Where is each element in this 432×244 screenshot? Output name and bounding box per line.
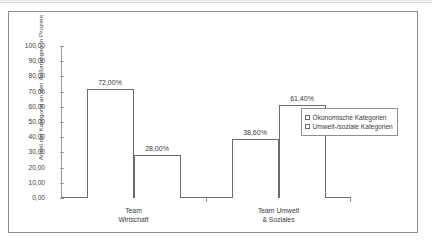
bar[interactable] bbox=[134, 155, 181, 198]
category-label-line: & Soziales bbox=[206, 215, 351, 224]
y-axis-tick bbox=[60, 122, 64, 123]
y-axis-tick-label: 40,00 bbox=[5, 133, 45, 140]
y-axis-tick bbox=[60, 152, 64, 153]
category-label: Team Umwelt& Soziales bbox=[206, 206, 351, 224]
y-axis-tick bbox=[60, 168, 64, 169]
bar-value-label: 38,60% bbox=[226, 129, 285, 136]
y-axis-tick-label: 10,00 bbox=[5, 179, 45, 186]
legend-swatch-icon bbox=[305, 115, 310, 120]
y-axis-tick-label: 80,00 bbox=[5, 72, 45, 79]
y-axis-tick-label: 60,00 bbox=[5, 103, 45, 110]
y-axis-tick-label: 100,00 bbox=[5, 42, 45, 49]
x-axis-tick bbox=[350, 198, 351, 202]
y-axis-tick-label: 30,00 bbox=[5, 148, 45, 155]
y-axis-tick-label: 20,00 bbox=[5, 164, 45, 171]
bar-value-label: 72,00% bbox=[81, 79, 140, 86]
bar[interactable] bbox=[87, 89, 134, 198]
y-axis-tick-label: 50,00 bbox=[5, 118, 45, 125]
legend-swatch-icon bbox=[305, 124, 310, 129]
bar-value-label: 28,00% bbox=[128, 145, 187, 152]
legend: Ökonomische Kategorien Umwelt-/soziale K… bbox=[301, 108, 398, 136]
category-label-line: Wirtschaft bbox=[61, 215, 206, 224]
y-axis-tick-label: 70,00 bbox=[5, 88, 45, 95]
chart-frame: Anteil der Kategorie an den Äußerungen i… bbox=[8, 11, 418, 233]
legend-item-label: Ökonomische Kategorien bbox=[313, 113, 387, 122]
y-axis-tick bbox=[60, 46, 64, 47]
bar-value-label: 61,40% bbox=[273, 95, 332, 102]
legend-item-1[interactable]: Umwelt-/soziale Kategorien bbox=[305, 122, 393, 131]
y-axis-tick bbox=[60, 198, 64, 199]
y-axis-tick bbox=[60, 92, 64, 93]
x-axis-tick bbox=[206, 198, 207, 202]
y-axis-tick-label: 0,00 bbox=[5, 194, 45, 201]
bar[interactable] bbox=[232, 139, 279, 198]
scan-artifact-line bbox=[0, 2, 432, 3]
y-axis-tick-label: 90,00 bbox=[5, 57, 45, 64]
y-axis-tick bbox=[60, 137, 64, 138]
legend-item-0[interactable]: Ökonomische Kategorien bbox=[305, 113, 393, 122]
chart-page: Anteil der Kategorie an den Äußerungen i… bbox=[0, 0, 432, 244]
legend-item-label: Umwelt-/soziale Kategorien bbox=[313, 122, 393, 131]
category-label-line: Team bbox=[61, 206, 206, 215]
scan-artifact-line-top bbox=[0, 0, 432, 1]
category-label: TeamWirtschaft bbox=[61, 206, 206, 224]
y-axis-tick bbox=[60, 183, 64, 184]
category-label-line: Team Umwelt bbox=[206, 206, 351, 215]
y-axis-tick bbox=[60, 76, 64, 77]
y-axis-tick bbox=[60, 61, 64, 62]
y-axis-tick bbox=[60, 107, 64, 108]
